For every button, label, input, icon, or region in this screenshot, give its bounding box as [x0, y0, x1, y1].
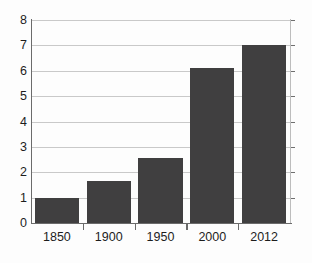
y-axis-tick-label: 7: [3, 39, 27, 52]
bar: [242, 45, 286, 223]
y-axis-tick-label: 2: [3, 166, 27, 179]
bar: [190, 68, 234, 223]
y-axis-tick-label: 4: [3, 115, 27, 128]
plot-right-edge: [290, 19, 291, 224]
bar-chart-figure: 012345678 18501900195020002012: [0, 0, 312, 263]
y-axis-line: [31, 19, 32, 224]
bar: [35, 198, 79, 223]
x-axis-tick: [135, 224, 136, 230]
x-axis-tick-label: 1950: [147, 231, 175, 245]
y-axis-tick-label: 1: [3, 191, 27, 204]
x-axis-tick: [83, 224, 84, 230]
bar: [138, 158, 182, 223]
x-axis-line: [31, 223, 292, 224]
x-axis-tick-label: 2012: [250, 231, 278, 245]
y-axis-tick-label: 8: [3, 14, 27, 27]
x-axis-tick-label: 2000: [198, 231, 226, 245]
x-axis-tick: [238, 224, 239, 230]
x-axis-tick-label: 1900: [95, 231, 123, 245]
x-axis-tick: [186, 224, 187, 230]
y-axis-tick-label: 0: [3, 217, 27, 230]
bar: [87, 181, 131, 223]
y-axis-tick-label: 6: [3, 65, 27, 78]
y-axis-tick-labels: 012345678: [0, 0, 27, 263]
x-axis-tick-labels: 18501900195020002012: [31, 231, 290, 251]
x-axis-tick-label: 1850: [43, 231, 71, 245]
gridline: [31, 20, 290, 21]
y-axis-tick-label: 3: [3, 141, 27, 154]
plot-area: [31, 20, 290, 223]
y-axis-tick-label: 5: [3, 90, 27, 103]
